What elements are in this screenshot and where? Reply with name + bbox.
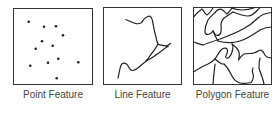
point-dot xyxy=(62,34,65,37)
point-dot xyxy=(57,57,60,60)
point-dot xyxy=(34,47,37,50)
polygon-feature-lines xyxy=(194,8,272,85)
point-dot xyxy=(77,61,80,64)
line-feature-lines xyxy=(118,16,171,78)
polygon-feature-label: Polygon Feature xyxy=(190,89,275,101)
point-feature-dots xyxy=(27,20,79,79)
point-dot xyxy=(55,25,58,28)
point-dot xyxy=(55,77,58,80)
point-feature-label: Point Feature xyxy=(13,89,93,101)
point-dot xyxy=(41,40,44,43)
point-dot xyxy=(29,64,32,67)
point-dot xyxy=(51,44,54,47)
point-dot xyxy=(27,20,30,23)
point-dot xyxy=(47,61,50,64)
point-dot xyxy=(43,25,46,28)
line-feature-label: Line Feature xyxy=(103,89,182,101)
